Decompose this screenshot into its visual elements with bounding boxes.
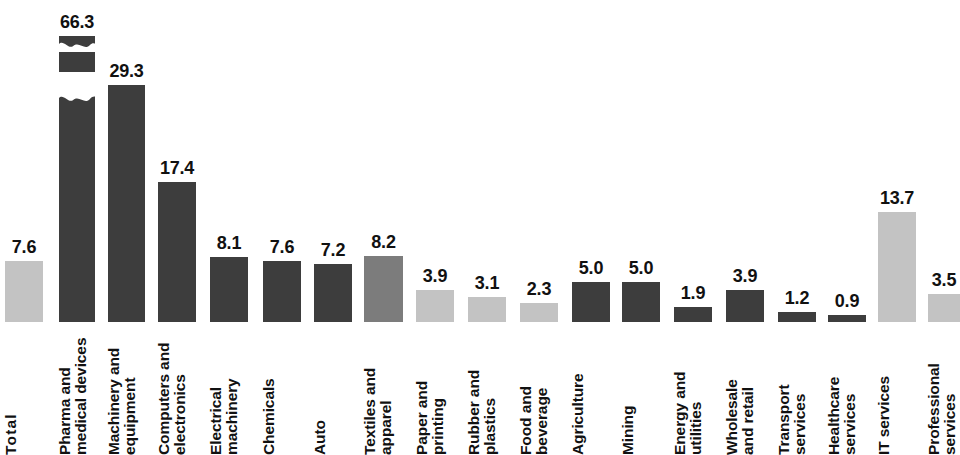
bar[interactable] <box>928 294 960 322</box>
category-label-line: Agriculture <box>570 327 586 455</box>
category-label-line: Rubber and <box>466 327 482 455</box>
bar-value-label: 8.2 <box>371 233 395 251</box>
bar-value-label: 3.9 <box>423 267 447 285</box>
category-label-9: Rubber andplastics <box>466 327 498 455</box>
bar-group-2[interactable] <box>108 85 145 322</box>
bar-value-label: 1.2 <box>785 289 809 307</box>
bar-group-10[interactable] <box>520 303 558 322</box>
bar-truncated-lower[interactable] <box>59 90 95 322</box>
bar-group-16[interactable] <box>828 315 866 322</box>
bar[interactable] <box>416 290 454 322</box>
bar[interactable] <box>622 282 660 322</box>
category-label-3: Computers andelectronics <box>156 327 188 455</box>
category-label-line: Auto <box>312 327 328 455</box>
bar-group-7[interactable] <box>364 256 403 322</box>
category-label-line: machinery <box>224 327 240 455</box>
bar[interactable] <box>778 312 816 322</box>
bar-value-label: 7.6 <box>12 238 36 256</box>
category-label-line: electronics <box>172 327 188 455</box>
category-label-14: Wholesaleand retail <box>724 327 756 455</box>
bar-group-9[interactable] <box>468 297 506 322</box>
bar-group-18[interactable] <box>928 294 960 322</box>
bar[interactable] <box>108 85 145 322</box>
category-label-2: Machinery andequipment <box>106 327 138 455</box>
bar[interactable] <box>572 282 610 322</box>
bar-value-label: 5.0 <box>579 259 603 277</box>
bar-value-label: 1.9 <box>681 284 705 302</box>
bar[interactable] <box>5 261 43 322</box>
category-label-line: equipment <box>122 327 138 455</box>
bar-group-8[interactable] <box>416 290 454 322</box>
category-label-18: Professionalservices <box>926 327 958 455</box>
bar[interactable] <box>210 257 248 322</box>
category-label-line: services <box>792 327 808 455</box>
bar-group-5[interactable] <box>263 261 301 322</box>
plot-area: 7.6Total66.3Pharma andmedical devices29.… <box>0 0 960 455</box>
bar-value-label: 13.7 <box>880 189 914 207</box>
bar-value-label: 7.6 <box>270 238 294 256</box>
bar[interactable] <box>364 256 403 322</box>
category-label-8: Paper andprinting <box>414 327 446 455</box>
bar[interactable] <box>468 297 506 322</box>
bar[interactable] <box>828 315 866 322</box>
bar-group-13[interactable] <box>674 307 712 322</box>
bar-value-label: 5.0 <box>629 259 653 277</box>
category-label-line: Electrical <box>208 327 224 455</box>
bar[interactable] <box>314 264 352 322</box>
category-label-line: Paper and <box>414 327 430 455</box>
bar-chart: 7.6Total66.3Pharma andmedical devices29.… <box>0 0 960 455</box>
category-label-6: Auto <box>312 327 328 455</box>
category-label-line: Total <box>3 327 19 455</box>
category-label-line: Textiles and <box>362 327 378 455</box>
category-label-15: Transportservices <box>776 327 808 455</box>
category-label-11: Agriculture <box>570 327 586 455</box>
category-label-16: Healthcareservices <box>826 327 858 455</box>
category-label-5: Chemicals <box>261 327 277 455</box>
bar-value-label: 7.2 <box>321 241 345 259</box>
category-label-line: printing <box>430 327 446 455</box>
bar-truncated-upper[interactable] <box>59 36 95 72</box>
bar[interactable] <box>726 290 764 322</box>
category-label-line: Professional <box>926 327 942 455</box>
category-label-line: services <box>942 327 958 455</box>
bar-group-15[interactable] <box>778 312 816 322</box>
category-label-line: medical devices <box>73 327 89 455</box>
bar-group-0[interactable] <box>5 261 43 322</box>
category-label-12: Mining <box>620 327 636 455</box>
bar[interactable] <box>263 261 301 322</box>
bar-value-label: 66.3 <box>60 13 94 31</box>
bar-group-14[interactable] <box>726 290 764 322</box>
bar-group-4[interactable] <box>210 257 248 322</box>
bar-group-11[interactable] <box>572 282 610 322</box>
bar-value-label: 0.9 <box>835 292 859 310</box>
category-label-line: Energy and <box>672 327 688 455</box>
category-label-line: Mining <box>620 327 636 455</box>
category-label-line: Food and <box>518 327 534 455</box>
category-label-line: Pharma and <box>57 327 73 455</box>
bar-value-label: 3.1 <box>475 274 499 292</box>
category-label-line: services <box>842 327 858 455</box>
bar[interactable] <box>520 303 558 322</box>
bar[interactable] <box>674 307 712 322</box>
bar-value-label: 2.3 <box>527 280 551 298</box>
category-label-line: Chemicals <box>261 327 277 455</box>
bar-group-1[interactable] <box>59 90 95 322</box>
bar-value-label: 8.1 <box>217 234 241 252</box>
category-label-line: apparel <box>378 327 394 455</box>
bar-group-1-upper-stub[interactable] <box>59 36 95 72</box>
bar[interactable] <box>878 212 916 322</box>
category-label-line: beverage <box>534 327 550 455</box>
category-label-line: Healthcare <box>826 327 842 455</box>
bar-value-label: 3.5 <box>932 271 956 289</box>
category-label-line: Computers and <box>156 327 172 455</box>
category-label-line: Machinery and <box>106 327 122 455</box>
category-label-line: IT services <box>876 327 892 455</box>
category-label-line: plastics <box>482 327 498 455</box>
bar-group-12[interactable] <box>622 282 660 322</box>
category-label-line: Wholesale <box>724 327 740 455</box>
bar-group-17[interactable] <box>878 212 916 322</box>
bar[interactable] <box>158 182 196 322</box>
bar-group-6[interactable] <box>314 264 352 322</box>
bar-group-3[interactable] <box>158 182 196 322</box>
category-label-7: Textiles andapparel <box>362 327 394 455</box>
